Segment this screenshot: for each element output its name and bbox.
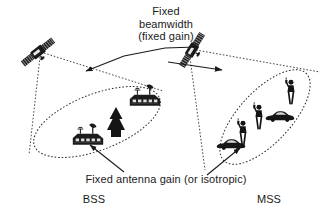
beamwidth-line-2: beamwidth (0, 18, 332, 31)
car-icon (266, 111, 295, 122)
system-label-bss: BSS (72, 193, 116, 206)
beamwidth-line-1: Fixed (0, 5, 332, 18)
person-handset-icon (285, 77, 294, 103)
person-handset-icon (253, 102, 262, 128)
beamwidth-line-3: (fixed gain) (0, 30, 332, 43)
gain-leader-line-mss (207, 148, 240, 175)
beamwidth-leader-lines (86, 47, 196, 71)
antenna-gain-annotation: Fixed antenna gain (or isotropic) (0, 173, 332, 186)
satellite-motion-arrow (168, 62, 222, 70)
mss-footprint-ellipse (205, 55, 325, 178)
house-with-dish-icon (73, 124, 103, 145)
person-handset-icon (237, 118, 246, 144)
system-label-mss: MSS (247, 193, 291, 206)
house-with-dish-icon (130, 85, 160, 106)
satellite-beam-coverage-diagram: Fixed beamwidth (fixed gain) Fixed anten… (0, 0, 332, 215)
gain-leader-line-bss (90, 145, 124, 172)
tree-icon (107, 107, 125, 137)
beamwidth-annotation: Fixed beamwidth (fixed gain) (0, 5, 332, 43)
